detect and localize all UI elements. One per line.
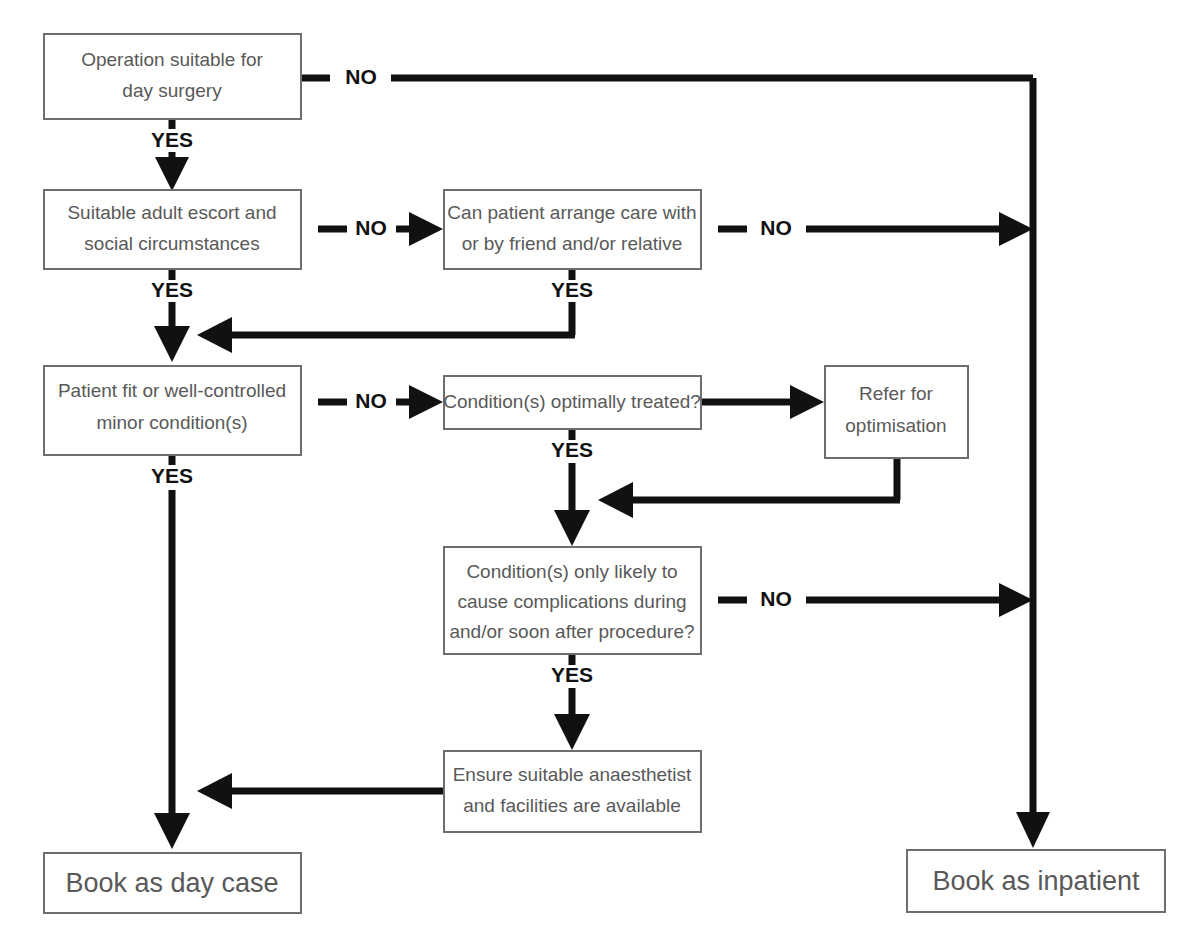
refer-optimisation-box[interactable]: Refer for optimisation [825, 366, 968, 458]
edge-label-operation-no: NO [345, 65, 377, 88]
edge-ensure-to-day-case [197, 773, 443, 809]
patient-fit-box[interactable]: Patient fit or well-controlled minor con… [44, 366, 301, 455]
ensure-anaesthetist-box[interactable]: Ensure suitable anaesthetist and facilit… [444, 751, 701, 832]
ensure-anaesthetist-line-1: Ensure suitable anaesthetist [453, 764, 692, 785]
edge-label-complications-no: NO [760, 587, 792, 610]
optimally-treated-line-1: Condition(s) optimally treated? [443, 391, 701, 412]
edge-label-escort-no: NO [355, 216, 387, 239]
operation-suitable-box[interactable]: Operation suitable for day surgery [44, 34, 301, 119]
operation-suitable-line-1: Operation suitable for [81, 49, 263, 70]
edge-label-optimally-treated-yes: YES [551, 438, 593, 461]
flowchart-canvas: Operation suitable for day surgery Suita… [0, 0, 1193, 950]
book-inpatient-box[interactable]: Book as inpatient [907, 850, 1165, 912]
book-day-case-label: Book as day case [65, 868, 278, 898]
refer-optimisation-line-1: Refer for [859, 383, 934, 404]
edge-right-trunk [1016, 78, 1050, 848]
flowchart-svg: Operation suitable for day surgery Suita… [0, 0, 1193, 950]
patient-fit-line-2: minor condition(s) [97, 412, 248, 433]
edge-label-patient-fit-yes: YES [151, 464, 193, 487]
complications-line-3: and/or soon after procedure? [449, 621, 694, 642]
edge-label-complications-yes: YES [551, 663, 593, 686]
edge-label-arrange-care-yes: YES [551, 278, 593, 301]
arrange-care-box[interactable]: Can patient arrange care with or by frie… [444, 190, 701, 269]
complications-box[interactable]: Condition(s) only likely to cause compli… [444, 547, 701, 654]
complications-line-1: Condition(s) only likely to [466, 561, 677, 582]
edge-label-arrange-care-no: NO [760, 216, 792, 239]
edge-arrange-care-yes [197, 269, 575, 353]
complications-line-2: cause complications during [457, 591, 686, 612]
optimally-treated-box[interactable]: Condition(s) optimally treated? [443, 376, 701, 429]
edge-label-patient-fit-no: NO [355, 389, 387, 412]
escort-social-box[interactable]: Suitable adult escort and social circums… [44, 190, 301, 269]
escort-social-line-1: Suitable adult escort and [67, 202, 276, 223]
edge-label-escort-yes: YES [151, 278, 193, 301]
edge-optimally-treated-to-refer [701, 385, 824, 419]
edge-label-operation-yes: YES [151, 128, 193, 151]
patient-fit-line-1: Patient fit or well-controlled [58, 380, 286, 401]
edge-refer-loopback [598, 458, 900, 518]
operation-suitable-line-2: day surgery [122, 80, 222, 101]
arrange-care-line-1: Can patient arrange care with [447, 202, 696, 223]
book-day-case-box[interactable]: Book as day case [44, 853, 301, 913]
edge-patient-fit-yes [154, 454, 190, 849]
escort-social-line-2: social circumstances [84, 233, 259, 254]
book-inpatient-label: Book as inpatient [932, 866, 1140, 896]
arrange-care-line-2: or by friend and/or relative [462, 233, 683, 254]
refer-optimisation-line-2: optimisation [845, 415, 946, 436]
ensure-anaesthetist-line-2: and facilities are available [463, 795, 681, 816]
